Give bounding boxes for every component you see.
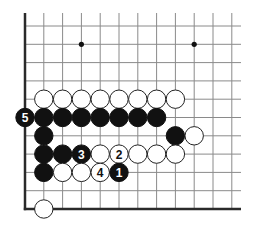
black-stone xyxy=(53,108,71,126)
move-number-label: 1 xyxy=(116,166,123,180)
black-stone xyxy=(35,127,53,145)
move-number-label: 4 xyxy=(97,166,104,180)
white-stone-disc xyxy=(147,145,165,163)
black-stone-disc xyxy=(110,108,128,126)
black-stone xyxy=(35,108,53,126)
white-stone-disc xyxy=(185,127,203,145)
black-stone xyxy=(35,163,53,181)
black-stone-disc xyxy=(147,108,165,126)
black-stone xyxy=(53,145,71,163)
white-stone xyxy=(185,127,203,145)
white-stone-disc xyxy=(91,90,109,108)
white-stone xyxy=(166,145,184,163)
black-stone xyxy=(147,108,165,126)
white-stone: 2 xyxy=(110,145,128,163)
move-number-label: 3 xyxy=(78,148,85,162)
black-stone-disc xyxy=(72,108,90,126)
black-stone: 1 xyxy=(110,163,128,181)
white-stone xyxy=(91,145,109,163)
white-stone xyxy=(110,90,128,108)
white-stone xyxy=(147,145,165,163)
white-stone-disc xyxy=(72,163,90,181)
black-stone xyxy=(129,108,147,126)
black-stone xyxy=(110,108,128,126)
white-stone-disc xyxy=(53,163,71,181)
black-stone-disc xyxy=(53,145,71,163)
white-stone xyxy=(91,90,109,108)
white-stone xyxy=(166,90,184,108)
white-stone xyxy=(72,163,90,181)
black-stone-disc xyxy=(35,127,53,145)
black-stone-disc xyxy=(35,108,53,126)
white-stone xyxy=(147,90,165,108)
go-board: 53241 xyxy=(0,0,261,229)
white-stone-disc xyxy=(72,90,90,108)
white-stone xyxy=(53,90,71,108)
black-stone xyxy=(166,127,184,145)
white-stone-disc xyxy=(35,200,53,218)
black-stone xyxy=(35,145,53,163)
black-stone-disc xyxy=(129,108,147,126)
move-number-label: 2 xyxy=(116,148,123,162)
black-stone-disc xyxy=(166,127,184,145)
white-stone-disc xyxy=(166,145,184,163)
star-point xyxy=(192,42,197,47)
white-stone-disc xyxy=(129,145,147,163)
white-stone: 4 xyxy=(91,163,109,181)
white-stone-disc xyxy=(35,90,53,108)
white-stone xyxy=(53,163,71,181)
white-stone xyxy=(129,145,147,163)
black-stone-disc xyxy=(91,108,109,126)
star-point xyxy=(79,42,84,47)
white-stone xyxy=(72,90,90,108)
black-stone xyxy=(72,108,90,126)
white-stone-disc xyxy=(110,90,128,108)
white-stone xyxy=(35,200,53,218)
black-stone-disc xyxy=(53,108,71,126)
white-stone-disc xyxy=(53,90,71,108)
black-stone-disc xyxy=(35,163,53,181)
white-stone-disc xyxy=(166,90,184,108)
white-stone-disc xyxy=(129,90,147,108)
black-stone-disc xyxy=(35,145,53,163)
black-stone: 5 xyxy=(16,108,34,126)
move-number-label: 5 xyxy=(22,111,29,125)
white-stone-disc xyxy=(91,145,109,163)
black-stone xyxy=(91,108,109,126)
white-stone xyxy=(129,90,147,108)
white-stone xyxy=(35,90,53,108)
black-stone: 3 xyxy=(72,145,90,163)
white-stone-disc xyxy=(147,90,165,108)
